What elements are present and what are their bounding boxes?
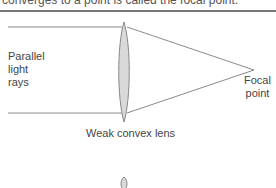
- label-line: Parallel: [8, 50, 45, 63]
- ray-bottom-refracted: [127, 70, 254, 113]
- label-line: Focal: [244, 74, 271, 87]
- parallel-rays-label: Parallel light rays: [8, 50, 45, 89]
- label-line: light: [8, 63, 45, 76]
- lens-label: Weak convex lens: [86, 127, 175, 140]
- ray-top-refracted: [127, 27, 254, 70]
- label-line: rays: [8, 76, 45, 89]
- focal-point-label: Focal point: [244, 74, 271, 100]
- convex-lens: [119, 22, 130, 122]
- label-line: point: [244, 87, 271, 100]
- second-lens-partial: [121, 177, 127, 188]
- lens-diagram: [0, 0, 276, 188]
